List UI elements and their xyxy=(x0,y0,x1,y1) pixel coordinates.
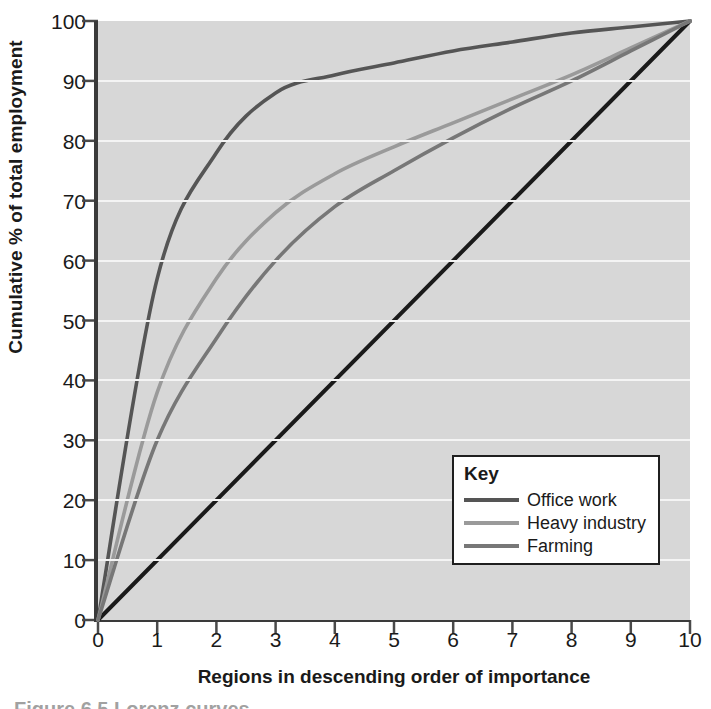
x-tick-label-0: 0 xyxy=(68,628,128,651)
x-axis-title: Regions in descending order of importanc… xyxy=(98,666,690,688)
legend-entry-list: Office workHeavy industryFarming xyxy=(464,489,658,558)
legend-entry-farming: Farming xyxy=(464,535,658,558)
gridline-30 xyxy=(98,439,690,441)
x-axis-tick-labels: 012345678910 xyxy=(0,628,711,662)
legend-entry-label: Farming xyxy=(527,537,593,555)
x-tick-label-4: 4 xyxy=(305,628,365,651)
gridline-80 xyxy=(98,140,690,142)
gridline-70 xyxy=(98,200,690,202)
legend-entry-office-work: Office work xyxy=(464,489,658,512)
lorenz-curve-figure: Cumulative % of total employment 0102030… xyxy=(0,0,711,709)
legend-entry-heavy-industry: Heavy industry xyxy=(464,512,658,535)
legend-swatch-icon xyxy=(464,498,519,502)
legend-entry-label: Heavy industry xyxy=(527,514,646,532)
legend-entry-label: Office work xyxy=(527,491,617,509)
figure-caption: Figure 6.5 Lorenz curves xyxy=(14,700,574,709)
x-tick-label-9: 9 xyxy=(601,628,661,651)
gridline-40 xyxy=(98,379,690,381)
legend-box: Key Office workHeavy industryFarming xyxy=(452,455,660,565)
x-tick-label-3: 3 xyxy=(246,628,306,651)
legend-title: Key xyxy=(464,462,658,486)
gridline-90 xyxy=(98,80,690,82)
x-tick-label-2: 2 xyxy=(186,628,246,651)
x-tick-label-1: 1 xyxy=(127,628,187,651)
x-tick-label-6: 6 xyxy=(423,628,483,651)
legend-swatch-icon xyxy=(464,521,519,525)
gridline-60 xyxy=(98,260,690,262)
gridline-50 xyxy=(98,320,690,322)
legend-swatch-icon xyxy=(464,544,519,548)
x-tick-label-5: 5 xyxy=(364,628,424,651)
x-tick-label-8: 8 xyxy=(542,628,602,651)
x-tick-label-7: 7 xyxy=(482,628,542,651)
x-tick-label-10: 10 xyxy=(660,628,711,651)
figure-caption-text: Figure 6.5 Lorenz curves xyxy=(14,700,574,709)
